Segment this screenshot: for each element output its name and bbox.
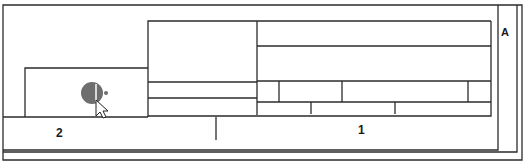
inner-frame-right (3, 5, 517, 152)
floor-plan-diagram (0, 0, 524, 163)
region-a-label: A (501, 26, 509, 38)
busy-cursor-icon (81, 82, 108, 118)
region-2-label: 2 (56, 126, 63, 140)
inner-frame (3, 5, 498, 150)
region-1-label: 1 (358, 123, 365, 137)
outer-frame (3, 5, 522, 160)
